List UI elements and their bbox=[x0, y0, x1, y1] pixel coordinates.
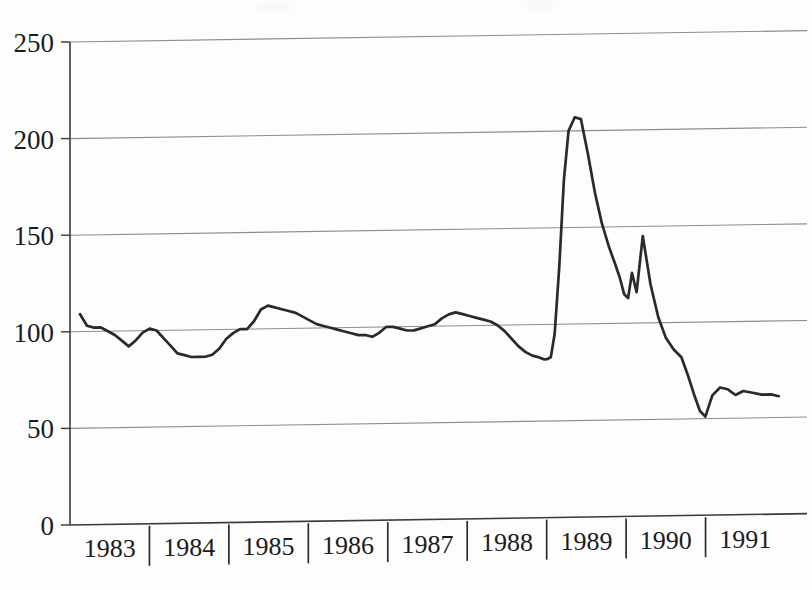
x-axis-spine bbox=[70, 514, 807, 525]
y-tick-label-200: 200 bbox=[14, 125, 55, 155]
y-tick-label-100: 100 bbox=[14, 318, 55, 348]
x-tick-label-1984: 1984 bbox=[163, 533, 215, 562]
gridline-150 bbox=[70, 224, 807, 235]
gridlines-group bbox=[70, 31, 807, 429]
x-tick-label-1991: 1991 bbox=[719, 525, 771, 554]
chart-page: 050100150200250 198319841985198619871988… bbox=[0, 0, 812, 590]
x-tick-label-1988: 1988 bbox=[481, 528, 533, 557]
y-tick-label-250: 250 bbox=[14, 28, 55, 58]
data-series-line bbox=[80, 117, 779, 416]
y-tick-label-150: 150 bbox=[14, 221, 55, 251]
line-chart: 050100150200250 198319841985198619871988… bbox=[0, 0, 812, 590]
x-axis-group bbox=[70, 514, 807, 525]
x-tick-label-1990: 1990 bbox=[640, 526, 692, 555]
x-tick-label-1987: 1987 bbox=[402, 530, 454, 559]
y-tick-label-0: 0 bbox=[41, 511, 55, 541]
gridline-200 bbox=[70, 127, 807, 138]
x-tick-label-1989: 1989 bbox=[560, 527, 612, 556]
y-tick-labels-group: 050100150200250 bbox=[14, 28, 55, 541]
y-tick-label-50: 50 bbox=[27, 414, 54, 444]
x-tick-labels-group: 198319841985198619871988198919901991 bbox=[84, 525, 772, 564]
x-tick-label-1983: 1983 bbox=[84, 534, 136, 563]
gridline-50 bbox=[70, 417, 807, 428]
x-tick-label-1986: 1986 bbox=[322, 531, 374, 560]
y-axis-group bbox=[61, 42, 70, 525]
x-tick-label-1985: 1985 bbox=[243, 532, 295, 561]
gridline-250 bbox=[70, 31, 807, 42]
